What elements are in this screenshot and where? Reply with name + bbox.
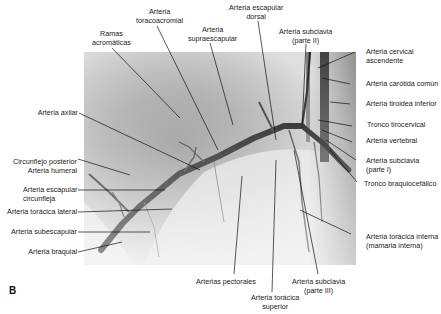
- label-arteria-braquial: Arteria braquial: [0, 248, 77, 257]
- label-ramas-acromaticas: Ramas acromáticas: [92, 30, 131, 47]
- label-tronco-braquiocefalico: Tronco braquiocefálico: [364, 180, 436, 189]
- label-escapular-dorsal: Arteria escapular dorsal: [229, 4, 283, 21]
- label-toracica-interna: Arteria torácica interna (mamaria intern…: [366, 233, 438, 250]
- label-carotida-comun: Arteria carótida común: [366, 80, 438, 89]
- label-circunflejo-posterior: Circunflejo posterior Arteria humeral: [0, 158, 77, 175]
- label-escapular-circunfleja: Arteria escapular circunfleja: [23, 186, 77, 203]
- label-subclavia-parte-i: Arteria subclavia (parte I): [366, 157, 419, 174]
- label-arterias-pectorales: Arterias pectorales: [196, 278, 256, 287]
- label-toracica-lateral: Arteria torácica lateral: [0, 208, 77, 217]
- panel-letter: B: [9, 285, 16, 296]
- angiogram-figure: Ramas acromáticas Arteria toracoacromial…: [0, 0, 441, 314]
- label-supraescapular: Arteria supraescapular: [188, 26, 237, 43]
- label-arteria-axilar: Arteria axilar: [20, 109, 78, 118]
- label-cervical-ascendente: Arteria cervical ascendente: [366, 48, 414, 65]
- label-arteria-vertebral: Arteria vertebral: [366, 137, 417, 146]
- label-subclavia-parte-ii: Arteria subclavia (parte II): [279, 28, 332, 45]
- label-toracica-superior: Arteria torácica superior: [251, 294, 299, 311]
- label-tronco-tirocervical: Tronco tirocervical: [367, 121, 425, 130]
- label-subclavia-parte-iii: Arteria subclavia (parte III): [292, 278, 345, 295]
- label-subescapular: Arteria subescapular: [0, 228, 77, 237]
- label-toracoacromial: Arteria toracoacromial: [136, 8, 183, 25]
- label-tiroidea-inferior: Arteria tiroidea inferior: [366, 100, 437, 109]
